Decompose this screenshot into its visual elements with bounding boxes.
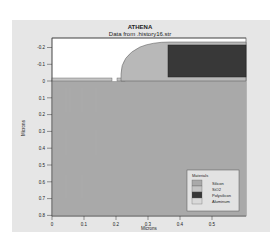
y-tick-labels: -0.2-0.10 0.10.20.3 0.40.50.6 0.70.8	[37, 45, 45, 218]
svg-text:0: 0	[51, 222, 54, 227]
y-axis	[47, 38, 52, 216]
svg-text:0.3: 0.3	[39, 129, 46, 134]
svg-text:0.5: 0.5	[39, 163, 46, 168]
region-sio2-left	[52, 78, 112, 81]
structure-plot: -0.2-0.10 0.10.20.3 0.40.50.6 0.70.8 Mic…	[0, 0, 280, 242]
legend: Materials Silicon SiO2 Polysilicon Alumi…	[187, 170, 239, 211]
region-polysilicon	[168, 45, 246, 77]
svg-text:0.6: 0.6	[39, 180, 46, 185]
svg-text:0.4: 0.4	[39, 146, 46, 151]
svg-text:-0.1: -0.1	[37, 62, 45, 67]
svg-text:0.2: 0.2	[113, 222, 120, 227]
svg-text:0.4: 0.4	[177, 222, 184, 227]
x-tick-labels: 00.10.2 0.30.40.5	[51, 222, 216, 227]
svg-text:-0.2: -0.2	[37, 45, 45, 50]
svg-text:0: 0	[42, 79, 45, 84]
svg-text:0.5: 0.5	[209, 222, 216, 227]
svg-text:0.1: 0.1	[39, 96, 46, 101]
svg-text:Silicon: Silicon	[212, 181, 224, 186]
svg-text:Aluminum: Aluminum	[212, 199, 230, 204]
svg-text:Polysilicon: Polysilicon	[212, 193, 231, 198]
svg-text:Materials: Materials	[192, 173, 208, 178]
svg-text:SiO2: SiO2	[212, 187, 222, 192]
x-axis-label: Microns	[141, 226, 158, 231]
svg-text:0.7: 0.7	[39, 196, 46, 201]
y-axis-label: Microns	[21, 119, 26, 136]
svg-text:0.1: 0.1	[81, 222, 88, 227]
x-axis	[52, 216, 246, 220]
svg-text:0.2: 0.2	[39, 112, 46, 117]
svg-text:0.8: 0.8	[39, 213, 46, 218]
